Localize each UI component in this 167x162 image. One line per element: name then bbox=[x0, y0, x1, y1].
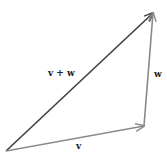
label-w: w bbox=[153, 69, 162, 79]
vector-v-plus-w-arrow bbox=[6, 13, 153, 151]
label-v: v bbox=[75, 141, 82, 151]
vector-w-arrow bbox=[144, 13, 153, 126]
label-v-plus-w: v + w bbox=[47, 68, 75, 78]
vector-v-arrow bbox=[6, 126, 144, 151]
diagram-canvas: v + w w v bbox=[0, 0, 167, 162]
vector-addition-diagram: v + w w v bbox=[0, 0, 167, 162]
